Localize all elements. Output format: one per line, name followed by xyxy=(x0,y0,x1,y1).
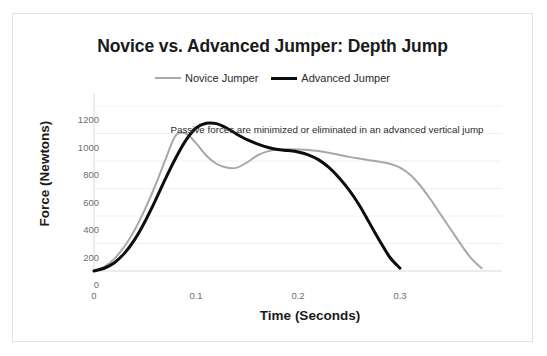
chart-annotation: Passive forces are minimized or eliminat… xyxy=(141,124,513,135)
y-tick-label: 200 xyxy=(65,251,99,262)
x-axis-title: Time (Seconds) xyxy=(106,308,514,323)
x-tick-label: 0.3 xyxy=(380,290,420,301)
y-tick-label: 1200 xyxy=(65,114,99,125)
x-tick-label: 0 xyxy=(74,290,114,301)
y-tick-label: 600 xyxy=(65,196,99,207)
x-tick-label: 0.2 xyxy=(278,290,318,301)
y-tick-label: 800 xyxy=(65,169,99,180)
series-line-novice-jumper xyxy=(94,132,482,271)
series-line-advanced-jumper xyxy=(94,123,400,271)
y-axis-title: Force (Newtons) xyxy=(37,101,52,246)
plot-area: 020040060080010001200 00.10.20.3 Force (… xyxy=(13,14,547,356)
y-axis-ticks: 020040060080010001200 xyxy=(65,14,99,356)
y-tick-label: 0 xyxy=(65,279,99,290)
chart-frame: Novice vs. Advanced Jumper: Depth Jump N… xyxy=(12,13,533,342)
y-tick-label: 400 xyxy=(65,224,99,235)
y-tick-label: 1000 xyxy=(65,141,99,152)
x-tick-label: 0.1 xyxy=(176,290,216,301)
